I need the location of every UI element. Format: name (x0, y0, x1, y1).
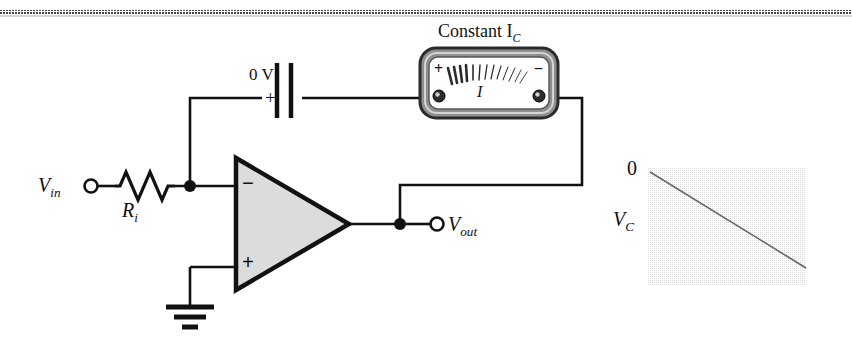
vout-terminal-circle (431, 218, 444, 231)
resistor-ri-label: Ri (122, 200, 138, 224)
vin-terminal-circle (85, 180, 98, 193)
vout-label: Vout (448, 214, 477, 238)
opamp-symbol (190, 158, 400, 290)
figure-canvas: Vin Ri 0 V + − Constant IC + − I − + Vou… (0, 0, 852, 344)
vin-label: Vin (38, 175, 60, 199)
capacitor-plus-sign: + (265, 88, 276, 107)
capacitor-voltage-label: 0 V (249, 66, 274, 83)
ammeter-plus-sign: + (434, 61, 443, 77)
page-edge-rule (0, 10, 852, 16)
resistor-ri-zigzag (115, 172, 175, 200)
opamp-inverting-sign: − (242, 173, 254, 194)
constant-current-caption: Constant IC (438, 22, 520, 44)
output-branch (394, 218, 444, 231)
vc-waveform-plot (648, 168, 806, 286)
input-branch (85, 172, 239, 200)
capacitor-c (277, 63, 291, 118)
ammeter-current-label: I (477, 84, 482, 100)
ammeter-face (429, 57, 549, 109)
ground-symbol (166, 267, 214, 327)
schematic-svg (0, 0, 852, 344)
ammeter-module (420, 48, 558, 118)
capacitor-minus-sign: − (303, 88, 314, 107)
chart-origin-tick-label: 0 (627, 158, 637, 178)
ammeter-minus-sign: − (534, 61, 543, 77)
output-node-junction-dot (394, 218, 406, 230)
chart-ylabel: VC (613, 209, 634, 233)
opamp-noninverting-sign: + (242, 252, 254, 273)
